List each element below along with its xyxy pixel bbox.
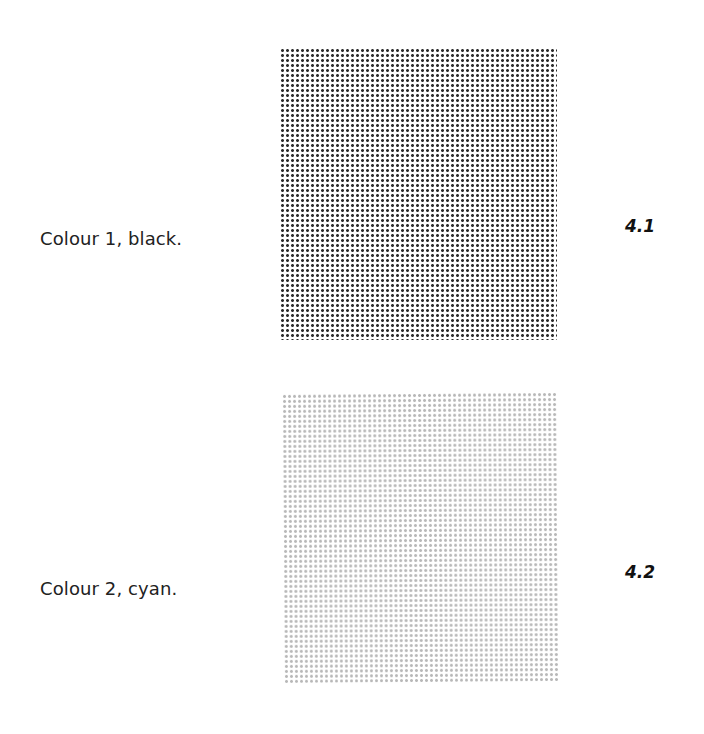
- figure-caption: Colour 1, black.: [40, 228, 182, 249]
- cutoff-text-line: [120, 0, 320, 2]
- black-halftone-swatch: [280, 48, 557, 340]
- figure-number-label: 4.2: [625, 562, 655, 582]
- figure-caption: Colour 2, cyan.: [40, 578, 177, 599]
- figure-number-label: 4.1: [625, 216, 655, 236]
- cyan-halftone-swatch: [282, 392, 559, 683]
